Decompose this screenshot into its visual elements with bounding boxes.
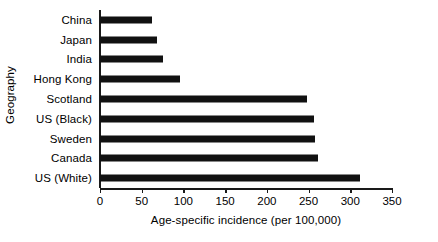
- bar: [100, 155, 318, 162]
- x-axis-tick-label: 0: [97, 195, 103, 207]
- x-axis-title: Age-specific incidence (per 100,000): [100, 214, 392, 226]
- y-axis-tick-labels: ChinaJapanIndiaHong KongScotlandUS (Blac…: [16, 10, 96, 188]
- y-axis-tick-label: Hong Kong: [34, 73, 92, 85]
- y-axis-tick-label: Sweden: [50, 133, 92, 145]
- y-axis-tick-label: Scotland: [46, 93, 92, 105]
- bar: [100, 76, 180, 83]
- plot-area: [100, 10, 392, 188]
- y-axis-tick-label: US (Black): [36, 113, 92, 125]
- x-axis-tick-mark: [309, 188, 310, 193]
- x-axis-tick-labels: 050100150200250300350: [100, 195, 392, 211]
- x-axis-tick-mark: [392, 188, 393, 193]
- y-axis-title-text: Geography: [4, 66, 16, 124]
- bar: [100, 96, 307, 103]
- y-axis-tick-label: US (White): [35, 172, 92, 184]
- x-axis-tick-mark: [183, 188, 184, 193]
- x-axis-tick-mark: [225, 188, 226, 193]
- x-axis-tick-marks: [100, 188, 392, 193]
- x-axis-tick-mark: [100, 188, 101, 193]
- x-axis-tick-label: 250: [299, 195, 318, 207]
- x-axis-tick-label: 300: [341, 195, 360, 207]
- bar: [100, 135, 315, 142]
- bar: [100, 36, 157, 43]
- bar: [100, 16, 152, 23]
- x-axis-tick-mark: [350, 188, 351, 193]
- x-axis-tick-label: 100: [174, 195, 193, 207]
- x-axis-tick-mark: [267, 188, 268, 193]
- bar: [100, 115, 314, 122]
- bar: [100, 175, 360, 182]
- x-axis-tick-label: 50: [135, 195, 148, 207]
- bar: [100, 56, 163, 63]
- x-axis-tick-label: 350: [382, 195, 401, 207]
- y-axis-tick-label: India: [67, 53, 92, 65]
- bar-chart-figure: Geography ChinaJapanIndiaHong KongScotla…: [0, 0, 438, 242]
- y-axis-tick-label: China: [61, 14, 92, 26]
- y-axis-tick-label: Canada: [51, 152, 92, 164]
- x-axis-tick-label: 150: [216, 195, 235, 207]
- x-axis-tick-mark: [142, 188, 143, 193]
- y-axis-tick-label: Japan: [60, 34, 92, 46]
- x-axis-tick-label: 200: [257, 195, 276, 207]
